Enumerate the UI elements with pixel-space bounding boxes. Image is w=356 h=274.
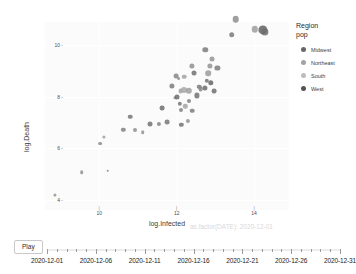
slider-date-label: 2020-12-11: [129, 257, 161, 264]
plot-panel[interactable]: [45, 22, 289, 210]
gridline-horizontal: [45, 45, 289, 46]
gridline-vertical: [99, 22, 100, 210]
scatter-point[interactable]: [106, 170, 109, 173]
scatter-point[interactable]: [80, 170, 84, 174]
scatter-point[interactable]: [190, 64, 195, 69]
slider-tick[interactable]: [291, 249, 292, 254]
scatter-point[interactable]: [157, 122, 161, 126]
slider-tick[interactable]: [106, 249, 107, 252]
slider-tick[interactable]: [213, 249, 214, 252]
scatter-point[interactable]: [232, 16, 239, 23]
animation-slider[interactable]: Play 2020-12-012020-12-062020-12-112020-…: [0, 238, 354, 274]
scatter-point[interactable]: [169, 83, 174, 88]
scatter-point[interactable]: [229, 32, 235, 38]
slider-tick[interactable]: [115, 249, 116, 252]
scatter-point[interactable]: [165, 120, 170, 125]
slider-tick[interactable]: [340, 249, 341, 254]
scatter-point[interactable]: [178, 102, 182, 106]
scatter-point[interactable]: [179, 108, 183, 112]
scatter-point[interactable]: [133, 128, 137, 132]
slider-tick[interactable]: [233, 249, 234, 252]
scatter-point[interactable]: [179, 122, 183, 126]
legend-item-label: Northeast: [311, 60, 335, 66]
slider-tick[interactable]: [203, 249, 204, 252]
slider-tick[interactable]: [47, 249, 48, 254]
slider-tick[interactable]: [242, 249, 243, 254]
y-tick-label: 10 -: [54, 42, 63, 48]
legend-swatch-icon: [301, 73, 306, 78]
slider-tick[interactable]: [135, 249, 136, 252]
scatter-point[interactable]: [185, 119, 189, 123]
scatter-point[interactable]: [182, 74, 187, 79]
slider-date-label: 2020-12-16: [177, 257, 209, 264]
gridline-vertical: [254, 22, 255, 210]
slider-tick[interactable]: [164, 249, 165, 252]
legend-item[interactable]: Midwest: [296, 43, 354, 56]
legend-item[interactable]: West: [296, 82, 354, 95]
scatter-point[interactable]: [53, 193, 56, 196]
slider-tick[interactable]: [184, 249, 185, 252]
scatter-point[interactable]: [186, 87, 192, 93]
slider-tick[interactable]: [67, 249, 68, 252]
slider-tick[interactable]: [252, 249, 253, 252]
slider-date-label: 2020-12-01: [31, 257, 63, 264]
scatter-point[interactable]: [210, 56, 215, 61]
scatter-point[interactable]: [187, 99, 191, 103]
slider-tick[interactable]: [223, 249, 224, 252]
y-tick-label: 8 -: [57, 94, 63, 100]
slider-tick[interactable]: [96, 249, 97, 254]
scatter-point[interactable]: [183, 104, 187, 108]
scatter-point[interactable]: [147, 122, 152, 127]
slider-tick[interactable]: [154, 249, 155, 252]
scatter-point[interactable]: [141, 130, 145, 134]
scatter-point[interactable]: [128, 114, 133, 119]
slider-date-label: 2020-12-26: [275, 257, 307, 264]
legend-item[interactable]: Northeast: [296, 56, 354, 69]
x-tick-label: |12: [174, 206, 180, 216]
slider-tick[interactable]: [194, 249, 195, 254]
legend-item-label: West: [311, 86, 323, 92]
slider-tick[interactable]: [57, 249, 58, 252]
slider-tick[interactable]: [76, 249, 77, 252]
scatter-point[interactable]: [121, 127, 125, 131]
scatter-point[interactable]: [190, 109, 195, 114]
legend-items[interactable]: MidwestNortheastSouthWest: [296, 43, 354, 95]
scatter-point[interactable]: [215, 65, 220, 70]
legend-item-label: Midwest: [311, 47, 331, 53]
slider-tick[interactable]: [86, 249, 87, 252]
scatter-point[interactable]: [98, 142, 102, 146]
slider-tick[interactable]: [272, 249, 273, 252]
slider-tick[interactable]: [301, 249, 302, 252]
legend-swatch-icon: [301, 60, 306, 65]
y-tick-label: 4 -: [57, 197, 63, 203]
scatter-point[interactable]: [261, 29, 268, 36]
scatter-point[interactable]: [207, 63, 212, 68]
slider-date-label: 2020-12-21: [226, 257, 258, 264]
y-tick-label: 6 -: [57, 145, 63, 151]
slider-tick[interactable]: [330, 249, 331, 252]
slider-tick[interactable]: [125, 249, 126, 252]
slider-tick[interactable]: [311, 249, 312, 252]
scatter-point[interactable]: [175, 95, 180, 100]
scatter-point[interactable]: [203, 47, 208, 52]
slider-tick[interactable]: [320, 249, 321, 252]
scatter-point[interactable]: [102, 135, 105, 138]
slider-tick[interactable]: [174, 249, 175, 252]
legend-item[interactable]: South: [296, 69, 354, 82]
scatter-point[interactable]: [192, 70, 197, 75]
scatter-point[interactable]: [211, 89, 216, 94]
slider-ticks[interactable]: [47, 249, 340, 255]
legend-title-pop: pop: [296, 31, 354, 40]
slider-tick[interactable]: [145, 249, 146, 254]
scatter-point[interactable]: [202, 85, 207, 90]
slider-tick[interactable]: [262, 249, 263, 252]
scatter-point[interactable]: [208, 80, 213, 85]
gridline-horizontal: [45, 148, 289, 149]
slider-tick[interactable]: [281, 249, 282, 252]
scatter-point[interactable]: [174, 74, 179, 79]
scatter-point[interactable]: [206, 70, 212, 76]
play-button[interactable]: Play: [14, 240, 43, 254]
legend: Region pop MidwestNortheastSouthWest: [296, 22, 354, 95]
scatter-point[interactable]: [160, 106, 165, 111]
